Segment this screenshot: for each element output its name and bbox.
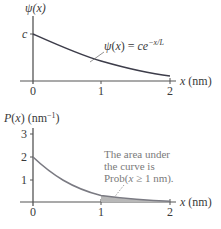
equation-label: ψ(x) = ce−x/L	[104, 38, 164, 53]
top-x-tick-label-1: 1	[98, 84, 104, 98]
annotation-line-3: Prob(x ≥ 1 nm).	[104, 172, 174, 185]
bottom-x-tick-label-2: 2	[167, 205, 173, 219]
bottom-y-tick-label-3: 3	[21, 127, 27, 141]
top-x-axis-label: x (nm)	[179, 74, 212, 88]
bottom-x-tick-label-0: 0	[30, 205, 36, 219]
annotation-line-2: the curve is	[104, 160, 155, 172]
top-c-label: c	[22, 27, 28, 41]
bottom-panel: P(x) (nm−1) 3 2 1 0 1 2 x (nm) The area …	[3, 111, 212, 219]
top-x-tick-label-2: 2	[167, 84, 173, 98]
bottom-y-tick-label-2: 2	[21, 150, 27, 164]
bottom-x-axis-label: x (nm)	[179, 195, 212, 209]
bottom-y-tick-label-1: 1	[21, 173, 27, 187]
top-x-tick-label-0: 0	[30, 84, 36, 98]
bottom-x-tick-label-1: 1	[98, 205, 104, 219]
annotation-line-1: The area under	[104, 148, 170, 160]
bottom-y-axis-label: P(x) (nm−1)	[3, 111, 60, 125]
equation-exponent: −x/L	[148, 38, 164, 47]
top-y-axis-label: ψ(x)	[25, 1, 46, 15]
figure: ψ(x) c 0 1 2 x (nm) ψ(x) = ce−x/L P(x) (…	[0, 0, 221, 229]
top-panel: ψ(x) c 0 1 2 x (nm) ψ(x) = ce−x/L	[20, 1, 212, 98]
